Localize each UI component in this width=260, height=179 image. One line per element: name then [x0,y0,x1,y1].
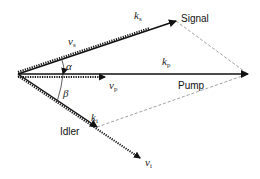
alpha-angle-arc [62,60,64,74]
alpha-label: α [66,61,72,72]
idler-to-pump-dashed-line [97,74,248,127]
idler-label: Idler [60,127,79,137]
nu-i-label: νi [145,157,152,170]
beta-label: β [63,88,68,99]
k-s-arrow [18,21,176,74]
k-s-label: ks [134,10,142,23]
nu-i-dotted-arrow [18,76,140,158]
nu-p-label: νp [109,80,117,93]
k-i-label: ki [91,112,98,125]
signal-label: Signal [181,14,209,24]
nu-s-dotted-line [18,28,150,72]
phase-matching-diagram [0,0,260,179]
nu-s-label: νs [68,36,76,49]
signal-to-pump-dashed-line [176,21,248,74]
pump-label: Pump [178,81,204,91]
k-p-label: kp [162,56,170,69]
